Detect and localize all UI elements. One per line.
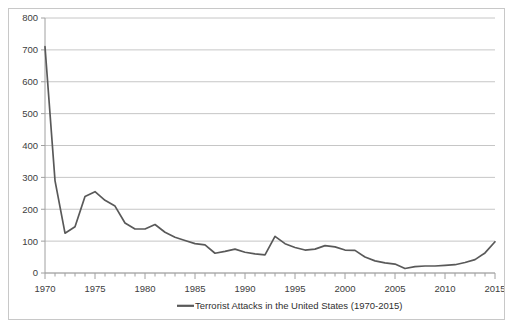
y-axis-tick-label: 800 [22, 12, 38, 23]
chart-legend: Terrorist Attacks in the United States (… [177, 300, 403, 311]
y-axis-tick-label: 500 [22, 108, 38, 119]
y-axis-tick-label: 300 [22, 172, 38, 183]
y-axis-tick-label: 400 [22, 140, 38, 151]
plot-area-wrapper: 0100200300400500600700800 19701975198019… [9, 9, 504, 319]
legend-entry-label: Terrorist Attacks in the United States (… [195, 300, 403, 311]
x-axis: 1970197519801985199019952000200520102015 [34, 273, 504, 294]
series-line-terrorist-attacks [45, 47, 495, 269]
y-axis-tick-label: 700 [22, 44, 38, 55]
y-axis: 0100200300400500600700800 [22, 12, 45, 278]
y-axis-tick-label: 200 [22, 204, 38, 215]
x-axis-tick-label: 1995 [284, 283, 305, 294]
x-axis-tick-label: 1985 [184, 283, 205, 294]
x-axis-tick-label: 2005 [384, 283, 405, 294]
y-axis-tick-label: 0 [33, 267, 38, 278]
data-series [45, 47, 495, 269]
gridlines [45, 18, 495, 273]
x-axis-tick-label: 1970 [34, 283, 55, 294]
x-axis-tick-label: 1980 [134, 283, 155, 294]
y-axis-tick-label: 100 [22, 236, 38, 247]
x-axis-tick-label: 2015 [484, 283, 504, 294]
x-axis-tick-label: 2000 [334, 283, 355, 294]
line-chart: 0100200300400500600700800 19701975198019… [9, 9, 504, 319]
x-axis-tick-label: 1990 [234, 283, 255, 294]
chart-container: 0100200300400500600700800 19701975198019… [8, 8, 505, 320]
y-axis-tick-label: 600 [22, 76, 38, 87]
x-axis-tick-label: 2010 [434, 283, 455, 294]
x-axis-tick-label: 1975 [84, 283, 105, 294]
